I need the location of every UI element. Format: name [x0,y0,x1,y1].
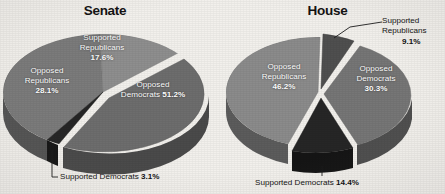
slice-label-value: 28.1% [36,86,59,95]
callout-label-supported-democrats: Supported Democrats 3.1% [60,172,159,182]
slice-label-line2: Republicans [25,76,70,85]
callout-label-supported-republicans: Supported Republicans 9.1% [382,16,427,47]
slice-label-line2: Republicans [80,43,125,52]
slice-label-line2: Democrats [121,90,160,99]
slice-label-line1: Opposed [268,62,301,71]
callout-label-value: 3.1% [141,172,159,181]
callout-label-text: Supported Democrats [255,178,336,187]
slice-label-value: 30.3% [365,84,388,93]
slice-label-line1: Supported [83,33,120,42]
slice-label-opposed-republicans: Opposed Republicans 28.1% [10,66,84,97]
chart-panel-senate: Senate [0,0,222,194]
slice-label-opposed-republicans: Opposed Republicans 46.2% [244,62,324,93]
callout-label-value: 9.1% [382,37,420,47]
figure-root: Senate [0,0,445,194]
slice-label-value: 17.6% [91,53,114,62]
callout-label-value: 14.4% [336,178,359,187]
slice-label-line1: Opposed [31,66,64,75]
slice-label-line1: Opposed [360,64,393,73]
slice-label-supported-republicans: Supported Republicans 17.6% [66,33,138,64]
callout-label-line1: Supported [382,16,419,25]
callout-label-text: Supported Democrats [60,172,141,181]
slice-label-value: 46.2% [273,82,296,91]
callout-leader-line-supported-republicans [334,22,382,38]
slice-label-line2: Republicans [262,72,307,81]
slice-wall-supported-democrats [47,140,58,166]
slice-label-line2: Democrats [356,74,395,83]
slice-label-opposed-democrats: Opposed Democrats 51.2% [112,80,194,100]
callout-label-supported-democrats: Supported Democrats 14.4% [255,178,359,188]
slice-label-opposed-democrats: Opposed Democrats 30.3% [340,64,412,95]
callout-label-line2: Republicans [382,26,427,35]
slice-label-line1: Opposed [137,80,170,89]
slice-label-value: 51.2% [162,90,185,99]
chart-panel-house: House [222,0,445,194]
